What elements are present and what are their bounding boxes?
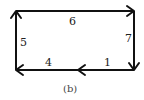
edge-label-top: 6: [69, 15, 76, 28]
edge-label-left: 5: [20, 36, 27, 49]
edge-label-bottom-right: 1: [104, 56, 111, 69]
edge-label-bottom-left: 4: [45, 56, 52, 69]
edge-label-right: 7: [125, 32, 132, 45]
cycle-diagram: 6 7 1 4 5 (b): [0, 0, 144, 100]
figure-caption: (b): [63, 83, 77, 94]
